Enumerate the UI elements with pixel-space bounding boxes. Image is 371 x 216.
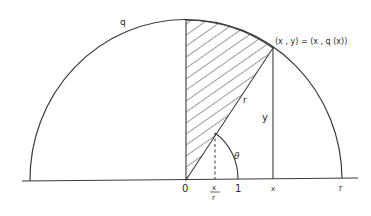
label-frac-num: x [212,184,216,192]
semicircle-diagram: q (x , y) = (x , q (x)) r y θ 0 x r 1 x … [0,0,371,216]
label-r-hyp: r [243,95,247,105]
label-theta: θ [234,151,240,161]
label-r-tick: r [339,184,343,193]
label-point: (x , y) = (x , q (x)) [275,37,347,46]
label-q: q [120,17,126,27]
x-axis-baseline [22,178,358,181]
label-frac-den: r [212,194,215,202]
label-x-tick: x [271,185,275,193]
label-y: y [262,112,268,123]
label-origin: 0 [182,183,188,194]
label-one: 1 [235,183,241,194]
hatched-sector [180,15,280,185]
